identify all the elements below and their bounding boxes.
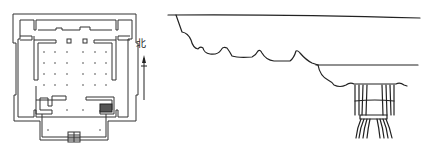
floor-plan-drawing bbox=[0, 0, 160, 152]
north-label: 北 bbox=[136, 39, 146, 49]
north-arrow-icon bbox=[141, 55, 147, 100]
column-grid bbox=[43, 51, 107, 131]
floor-plan: 北 bbox=[0, 0, 160, 152]
bracket-elevation-drawing bbox=[160, 0, 425, 152]
bracket-elevation bbox=[160, 0, 425, 152]
